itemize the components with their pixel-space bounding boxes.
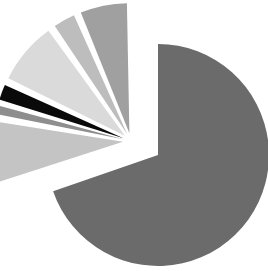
pie-slice-1	[53, 44, 268, 266]
pie-chart	[0, 0, 268, 271]
